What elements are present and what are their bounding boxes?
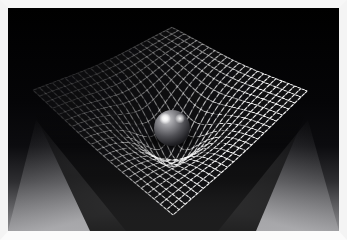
figure-root: Spacetime curvature rubber-sheet visuali… <box>0 0 347 240</box>
photo-frame-border <box>0 0 347 240</box>
